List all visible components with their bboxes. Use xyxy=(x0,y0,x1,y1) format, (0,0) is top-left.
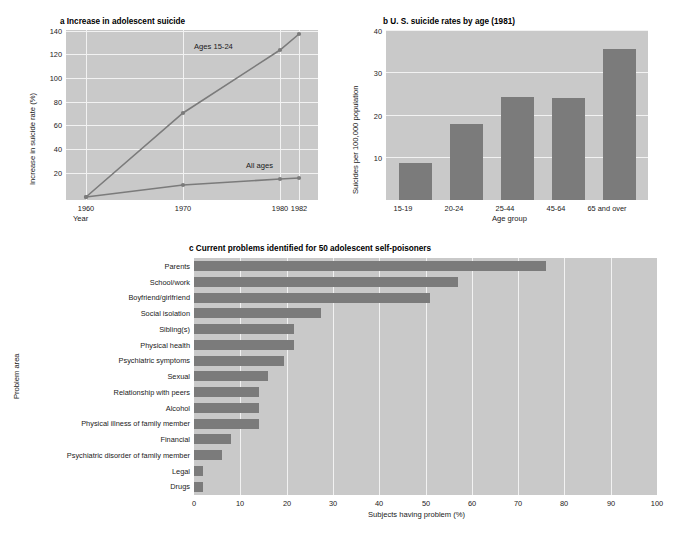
gridline-x-60 xyxy=(472,258,473,495)
gridline-x-90 xyxy=(611,258,612,495)
panel-a-ytick-100: 100 xyxy=(36,74,62,83)
panel-a-xtick-1970: 1970 xyxy=(163,204,203,213)
panel-c-xtick-70: 70 xyxy=(503,499,533,508)
hbar-social-isolation xyxy=(194,308,321,318)
panel-a-ytick-120: 120 xyxy=(36,50,62,59)
panel-a-ytick-80: 80 xyxy=(36,98,62,107)
hbar-alcohol xyxy=(194,403,259,413)
hbar-legal xyxy=(194,466,203,476)
hbar-siblings xyxy=(194,324,294,334)
panel-c-xtick-80: 80 xyxy=(549,499,579,508)
panel-c-category-social-isolation: Social isolation xyxy=(34,309,190,318)
panel-a-ytick-40: 40 xyxy=(36,145,62,154)
panel-c-xtick-0: 0 xyxy=(179,499,209,508)
panel-b-us-suicide-rates-by-age: b U. S. suicide rates by age (1981) 40 3… xyxy=(340,0,674,232)
panel-c-category-alcohol: Alcohol xyxy=(34,404,190,413)
panel-c-category-sexual: Sexual xyxy=(34,372,190,381)
panel-c-title: c Current problems identified for 50 ado… xyxy=(189,244,431,253)
panel-b-ytick-40: 40 xyxy=(356,27,382,36)
panel-c-category-financial: Financial xyxy=(34,435,190,444)
bar-20-24 xyxy=(450,124,483,200)
panel-c-xtick-20: 20 xyxy=(272,499,302,508)
gridline-x-70 xyxy=(518,258,519,495)
hbar-physical-illness-of-family-member xyxy=(194,419,259,429)
bar-65-and-over xyxy=(603,49,636,200)
panel-c-current-problems: c Current problems identified for 50 ado… xyxy=(0,232,674,544)
gridline-x-80 xyxy=(564,258,565,495)
hbar-sexual xyxy=(194,371,268,381)
bar-25-44 xyxy=(501,97,534,200)
panel-a-ytick-140: 140 xyxy=(36,27,62,36)
panel-a-plot-area: Ages 15-24 All ages xyxy=(66,30,318,200)
panel-c-yaxis-label: Problem area xyxy=(12,353,21,399)
panel-a-ytick-20: 20 xyxy=(36,169,62,178)
hbar-psychiatric-symptoms xyxy=(194,356,284,366)
panel-c-category-psychiatric-disorder-of-family-member: Psychiatric disorder of family member xyxy=(4,451,190,460)
hbar-boyfriend-girlfriend xyxy=(194,293,430,303)
panel-c-xtick-40: 40 xyxy=(364,499,394,508)
panel-a-xtick-1982: 1982 xyxy=(279,204,319,213)
panel-c-category-psychiatric-symptoms: Psychiatric symptoms xyxy=(34,356,190,365)
panel-a-series-lines xyxy=(66,30,318,200)
panel-b-plot-area xyxy=(386,30,648,200)
panel-b-xtick-65-and-over: 65 and over xyxy=(576,204,638,213)
series-label-ages-15-24: Ages 15-24 xyxy=(194,42,233,51)
panel-b-xaxis-label: Age group xyxy=(492,214,527,223)
panel-c-category-relationship-with-peers: Relationship with peers xyxy=(34,388,190,397)
panel-c-category-school-work: School/work xyxy=(34,278,190,287)
bar-15-19 xyxy=(399,163,432,200)
panel-c-xtick-100: 100 xyxy=(642,499,672,508)
hbar-school-work xyxy=(194,277,458,287)
panel-c-category-parents: Parents xyxy=(34,262,190,271)
panel-b-ytick-30: 30 xyxy=(356,69,382,78)
panel-a-xaxis-label: Year xyxy=(73,214,88,223)
panel-c-xtick-90: 90 xyxy=(596,499,626,508)
panel-b-title: b U. S. suicide rates by age (1981) xyxy=(383,17,515,26)
panel-a-increase-in-adolescent-suicide: a Increase in adolescent suicide Ages xyxy=(0,0,340,232)
panel-a-xtick-1960: 1960 xyxy=(66,204,106,213)
bar-45-64 xyxy=(552,98,585,200)
hbar-parents xyxy=(194,261,546,271)
panel-b-xtick-25-44: 25-44 xyxy=(481,204,529,213)
panel-c-plot-area xyxy=(194,258,657,495)
hbar-physical-health xyxy=(194,340,294,350)
panel-c-xtick-10: 10 xyxy=(225,499,255,508)
panel-a-ytick-60: 60 xyxy=(36,121,62,130)
panel-b-xtick-45-64: 45-64 xyxy=(532,204,580,213)
panel-b-xtick-20-24: 20-24 xyxy=(430,204,478,213)
panel-c-category-legal: Legal xyxy=(34,467,190,476)
series-label-all-ages: All ages xyxy=(246,161,273,170)
panel-c-category-physical-health: Physical health xyxy=(34,341,190,350)
panel-c-category-siblings: Sibling(s) xyxy=(34,325,190,334)
gridline-y-40 xyxy=(386,30,648,31)
panel-c-xtick-60: 60 xyxy=(457,499,487,508)
panel-a-yaxis-label: Increase in suicide rate (%) xyxy=(28,93,37,185)
panel-c-category-boyfriend-girlfriend: Boyfriend/girlfriend xyxy=(34,293,190,302)
panel-c-xtick-30: 30 xyxy=(318,499,348,508)
hbar-financial xyxy=(194,434,231,444)
panel-a-title: a Increase in adolescent suicide xyxy=(60,17,185,26)
panel-c-xaxis-label: Subjects having problem (%) xyxy=(368,510,465,519)
panel-c-category-drugs: Drugs xyxy=(34,482,190,491)
hbar-drugs xyxy=(194,482,203,492)
panel-b-xtick-15-19: 15-19 xyxy=(379,204,427,213)
hbar-relationship-with-peers xyxy=(194,387,259,397)
panel-c-category-physical-illness-of-family-member: Physical illness of family member xyxy=(14,419,190,428)
panel-b-yaxis-label: Suicides per 100,000 population xyxy=(351,85,360,194)
panel-c-xtick-50: 50 xyxy=(411,499,441,508)
hbar-psychiatric-disorder-of-family-member xyxy=(194,450,222,460)
